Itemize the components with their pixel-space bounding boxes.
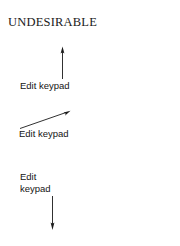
arrow-up <box>61 47 65 80</box>
callout-label-2: Edit keypad <box>19 128 69 140</box>
arrow-layer <box>0 0 180 246</box>
arrow-diagonal-up-right <box>20 111 71 129</box>
arrow-down <box>51 196 55 230</box>
callout-label-3: Edit keypad <box>20 171 51 194</box>
page-title: UNDESIRABLE <box>8 15 97 30</box>
callout-label-1: Edit keypad <box>20 80 70 92</box>
undesirable-diagram: UNDESIRABLE Edit keypad Edit keypad Edit… <box>0 0 180 246</box>
